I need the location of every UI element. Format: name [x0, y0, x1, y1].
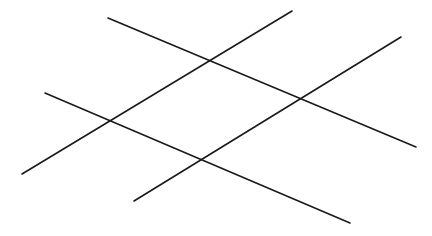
line-figure-svg	[0, 0, 432, 236]
figure-background	[0, 0, 432, 236]
line-figure-canvas	[0, 0, 432, 236]
